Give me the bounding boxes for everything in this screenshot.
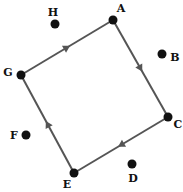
node-label-f: F	[10, 129, 18, 142]
node-label-d: D	[128, 172, 138, 185]
node-label-e: E	[63, 178, 71, 191]
node-b	[158, 50, 167, 59]
node-label-g: G	[3, 66, 12, 79]
node-h	[51, 20, 60, 29]
node-g	[17, 71, 26, 80]
node-f	[22, 131, 31, 140]
node-e	[70, 169, 79, 178]
node-label-b: B	[170, 51, 179, 64]
node-a	[109, 16, 118, 25]
node-c	[164, 113, 173, 122]
node-d	[128, 160, 137, 169]
edges-group	[21, 20, 168, 173]
node-label-c: C	[174, 118, 183, 131]
node-label-h: H	[48, 6, 58, 19]
cycle-diagram: ABCDEFGH	[0, 0, 183, 192]
node-label-a: A	[116, 2, 126, 15]
